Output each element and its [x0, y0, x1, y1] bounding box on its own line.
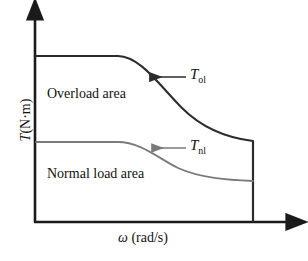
torque-speed-figure: T(N·m) ω (rad/s) Overload area Normal lo… [0, 0, 308, 261]
x-axis-units: (rad/s) [131, 230, 168, 245]
plot-canvas [0, 0, 308, 261]
y-axis-title: T(N·m) [18, 72, 34, 168]
overload-area-label: Overload area [47, 86, 126, 102]
normal-curve-subscript: nl [198, 145, 206, 156]
overload-curve-subscript: ol [198, 74, 206, 85]
overload-curve-label: Tol [190, 66, 206, 85]
normal-curve-label: Tnl [190, 137, 206, 156]
x-axis-symbol: ω [118, 230, 128, 245]
normal-load-area-label: Normal load area [47, 166, 144, 182]
y-axis-symbol: T [18, 134, 33, 142]
axis-group [34, 18, 288, 222]
x-axis-title: ω (rad/s) [118, 230, 168, 246]
y-axis-units: (N·m) [18, 99, 33, 134]
